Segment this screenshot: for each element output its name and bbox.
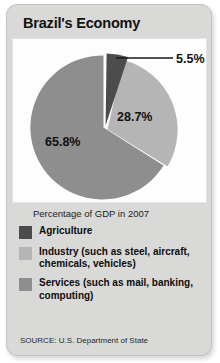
- page-title: Brazil's Economy: [23, 15, 140, 31]
- legend-item-industry[interactable]: Industry (such as steel, aircraft, chemi…: [19, 246, 207, 270]
- chart-legend: Agriculture Industry (such as steel, air…: [19, 225, 207, 309]
- legend-label-services: Services (such as mail, banking, computi…: [39, 277, 207, 301]
- pie-label-services: 65.8%: [45, 135, 80, 149]
- legend-label-industry: Industry (such as steel, aircraft, chemi…: [39, 246, 207, 270]
- legend-item-services[interactable]: Services (such as mail, banking, computi…: [19, 277, 207, 301]
- chart-panel: 5.5% 28.7% 65.8%: [12, 38, 207, 203]
- legend-label-agriculture: Agriculture: [39, 225, 92, 237]
- legend-swatch-agriculture: [19, 226, 32, 239]
- chart-caption: Percentage of GDP in 2007: [33, 208, 149, 219]
- legend-swatch-services: [19, 278, 32, 291]
- legend-swatch-industry: [19, 247, 32, 260]
- source-attribution: SOURCE: U.S. Department of State: [20, 336, 148, 345]
- pie-label-agriculture: 5.5%: [176, 52, 205, 66]
- infographic-card: Brazil's Economy 5.5% 28.7% 65.8% Percen…: [6, 4, 212, 356]
- pie-label-industry: 28.7%: [117, 110, 152, 124]
- pie-chart: 5.5% 28.7% 65.8%: [13, 39, 206, 202]
- legend-item-agriculture[interactable]: Agriculture: [19, 225, 207, 239]
